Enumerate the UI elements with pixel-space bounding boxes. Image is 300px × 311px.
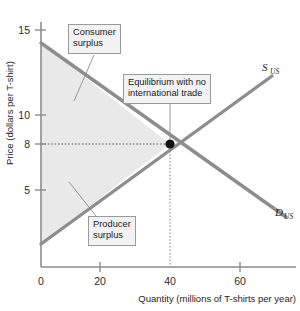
producer-surplus-callout-line1: Producer xyxy=(93,219,131,230)
x-tick-label-0: 0 xyxy=(38,275,44,287)
equilibrium-point-marker xyxy=(165,139,174,148)
x-tick-label-20: 20 xyxy=(94,275,106,287)
consumer-surplus-callout-line1: Consumer xyxy=(73,27,116,38)
chart-canvas: 15 10 8 5 0 20 40 60 S US D US Quantity … xyxy=(0,0,300,311)
supply-curve-label: S xyxy=(262,61,268,73)
producer-surplus-callout-line2: surplus xyxy=(93,230,131,241)
producer-surplus-callout: Producer surplus xyxy=(88,216,136,246)
demand-curve-label: D xyxy=(274,206,283,218)
consumer-surplus-callout-line2: surplus xyxy=(73,38,116,49)
equilibrium-callout: Equilibrium with no international trade xyxy=(123,74,211,104)
y-tick-label-10: 10 xyxy=(18,109,30,121)
x-tick-label-40: 40 xyxy=(164,275,176,287)
y-tick-label-5: 5 xyxy=(24,184,30,196)
y-tick-label-15: 15 xyxy=(18,24,30,36)
supply-curve-label-subscript: US xyxy=(270,67,279,76)
consumer-surplus-callout: Consumer surplus xyxy=(68,24,121,54)
supply-demand-chart: 15 10 8 5 0 20 40 60 S US D US Quantity … xyxy=(0,0,300,311)
equilibrium-callout-line1: Equilibrium with no xyxy=(128,77,206,88)
x-axis-title: Quantity (millions of T-shirts per year) xyxy=(138,293,296,304)
equilibrium-callout-line2: international trade xyxy=(128,88,206,99)
y-axis-title: Price (dollars per T-shirt) xyxy=(4,61,15,165)
y-tick-label-8: 8 xyxy=(24,138,30,150)
x-tick-label-60: 60 xyxy=(234,275,246,287)
demand-curve-label-subscript: US xyxy=(284,212,293,221)
